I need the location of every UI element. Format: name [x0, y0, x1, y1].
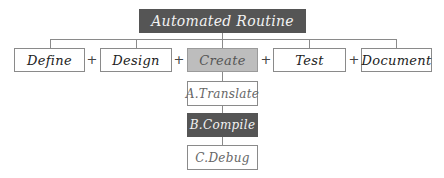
- connector-test: [309, 39, 310, 48]
- connector-design: [136, 39, 137, 48]
- step-create: Create: [187, 48, 258, 72]
- step-document: Document: [361, 48, 432, 72]
- substep-translate: A.Translate: [187, 81, 258, 106]
- substep-debug: C.Debug: [187, 145, 258, 170]
- step-test: Test: [273, 48, 346, 72]
- plus-separator: +: [86, 52, 98, 67]
- connector-translate-compile: [222, 106, 223, 113]
- step-define-label: Define: [27, 53, 72, 68]
- step-test-label: Test: [295, 53, 323, 68]
- step-design: Design: [100, 48, 172, 72]
- step-define: Define: [14, 48, 85, 72]
- connector-compile-debug: [222, 137, 223, 145]
- connector-document: [396, 39, 397, 48]
- substep-debug-label: C.Debug: [195, 151, 249, 165]
- substep-compile-label: B.Compile: [190, 118, 256, 132]
- step-create-label: Create: [199, 53, 245, 68]
- connector-create: [222, 39, 223, 48]
- connector-horizontal: [50, 39, 396, 40]
- plus-separator: +: [348, 52, 360, 67]
- title-label: Automated Routine: [151, 13, 294, 29]
- substep-translate-label: A.Translate: [186, 87, 259, 101]
- substep-compile: B.Compile: [187, 113, 258, 137]
- step-design-label: Design: [112, 53, 159, 68]
- step-document-label: Document: [362, 53, 432, 68]
- connector-create-translate: [222, 72, 223, 81]
- plus-separator: +: [173, 52, 185, 67]
- plus-separator: +: [260, 52, 272, 67]
- connector-define: [50, 39, 51, 48]
- title-box: Automated Routine: [139, 9, 306, 33]
